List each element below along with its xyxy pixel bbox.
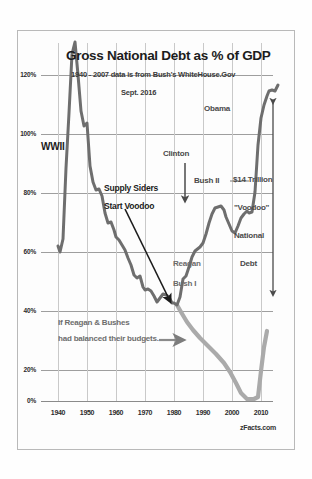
chart-svg — [18, 31, 296, 451]
annotation-national: National — [234, 231, 264, 240]
gridline-0 — [41, 401, 273, 402]
y-tick-120: 120% — [0, 71, 36, 78]
annotation-voodoo: "Voodoo" — [234, 203, 269, 212]
vgridline-1960 — [116, 43, 117, 401]
annotation-balanced-line1: If Reagan & Bushes — [58, 318, 130, 327]
y-tick-60: 60% — [0, 248, 36, 255]
x-tick-1940: 1940 — [43, 409, 73, 416]
chart-datestamp: Sept. 2016 — [121, 88, 156, 97]
vgridline-1990 — [203, 43, 204, 401]
vgridline-2000 — [232, 43, 233, 401]
x-tick-1960: 1960 — [101, 409, 131, 416]
source-credit: zFacts.com — [240, 424, 276, 431]
y-tick-100: 100% — [0, 130, 36, 137]
annotation-bush-i: Bush I — [173, 279, 196, 288]
series-balanced-budget — [177, 305, 267, 399]
x-tick-1980: 1980 — [159, 409, 189, 416]
vgridline-1940 — [58, 43, 59, 401]
annotation-reagan: Reagan — [173, 259, 201, 268]
annotation-debt: Debt — [240, 259, 257, 268]
vgridline-2010 — [261, 43, 262, 401]
gridline-20 — [41, 370, 273, 371]
annotation-start-voodoo: Start Voodoo — [104, 201, 154, 211]
x-tick-1990: 1990 — [188, 409, 218, 416]
y-tick-20: 20% — [0, 366, 36, 373]
gridline-100 — [41, 134, 273, 135]
annotation-bush-ii: Bush II — [194, 176, 219, 185]
annotation-wwii: WWII — [41, 141, 65, 152]
plot-area: 120% 100% 80% 60% 40% 20% 0% 1940 1950 1… — [18, 31, 296, 451]
screenshot-root: 120% 100% 80% 60% 40% 20% 0% 1940 1950 1… — [0, 0, 312, 479]
gridline-60 — [41, 252, 273, 253]
y-tick-40: 40% — [0, 307, 36, 314]
x-tick-2010: 2010 — [246, 409, 276, 416]
vgridline-1980 — [174, 43, 175, 401]
annotation-supply-siders: Supply Siders — [104, 183, 158, 193]
vgridline-1950 — [87, 43, 88, 401]
chart-title: Gross National Debt as % of GDP — [66, 48, 271, 63]
gridline-40 — [41, 311, 273, 312]
x-tick-1970: 1970 — [130, 409, 160, 416]
gridline-80 — [41, 193, 273, 194]
supply-siders-arrow — [125, 209, 169, 299]
annotation-balanced-line2: had balanced their budgets. — [58, 334, 159, 343]
chart-card: 120% 100% 80% 60% 40% 20% 0% 1940 1950 1… — [17, 30, 295, 450]
x-tick-1950: 1950 — [72, 409, 102, 416]
chart-subtitle: 1940 - 2007 data is from Bush's WhiteHou… — [71, 70, 235, 79]
x-tick-2000: 2000 — [217, 409, 247, 416]
annotation-14-trillion: $14 Trillion — [233, 175, 272, 184]
y-tick-80: 80% — [0, 189, 36, 196]
annotation-obama: Obama — [204, 104, 230, 113]
y-tick-0: 0% — [0, 397, 36, 404]
annotation-clinton: Clinton — [163, 149, 189, 158]
